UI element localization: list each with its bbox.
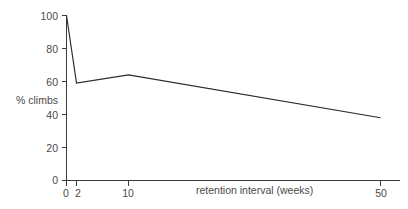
y-tick-label-40: 40 <box>46 109 58 121</box>
y-tick-label-20: 20 <box>46 142 58 154</box>
y-tick-label-100: 100 <box>40 10 58 22</box>
x-axis-title: retention interval (weeks) <box>196 184 313 196</box>
x-tick-label-2: 2 <box>75 187 81 199</box>
chart-figure: 100 80 60 40 20 0 % climbs 0 2 10 50 ret… <box>0 0 408 209</box>
y-tick-label-0: 0 <box>52 174 58 186</box>
x-tick-label-0: 0 <box>63 187 69 199</box>
y-tick-label-80: 80 <box>46 43 58 55</box>
y-tick-label-60: 60 <box>46 76 58 88</box>
x-tick-label-10: 10 <box>122 187 134 199</box>
x-tick-label-50: 50 <box>375 187 387 199</box>
chart-background <box>0 0 408 209</box>
line-chart-plot: 100 80 60 40 20 0 % climbs 0 2 10 50 ret… <box>0 0 408 209</box>
y-axis-title: % climbs <box>16 94 58 106</box>
